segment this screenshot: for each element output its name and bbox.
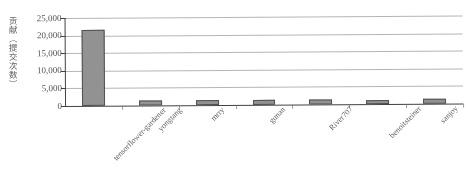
x-tick-label-text: mrry	[210, 106, 227, 123]
gridlines	[65, 16, 463, 18]
y-tick-label: 15,000	[18, 49, 62, 58]
x-tick-label: benoitsteiner	[388, 105, 423, 140]
y-tick-label: 20,000	[18, 31, 62, 40]
bar	[253, 100, 276, 105]
x-tick-label: tensorflower-gardener	[113, 106, 169, 162]
x-tick-label: gunan	[268, 106, 287, 126]
y-tick-mark	[61, 18, 66, 19]
y-axis-line	[65, 18, 67, 106]
y-axis-tick-labels: 25,00020,00015,00010,0005,0000	[15, 1, 62, 192]
bar	[310, 100, 333, 105]
x-tick-label-text: sanjoy	[439, 105, 459, 125]
bar	[196, 101, 219, 106]
y-tick-label: 5,000	[18, 84, 62, 93]
y-tick-mark	[61, 71, 66, 72]
y-tick-mark	[61, 36, 66, 37]
y-tick-label: 25,000	[17, 14, 61, 23]
x-tick-label-text: tensorflower-gardener	[113, 106, 169, 162]
x-tick-label: mrry	[210, 106, 227, 123]
x-axis-category-labels: tensorflower-gardeneryongtangmrrygunanRi…	[65, 105, 463, 187]
gridline	[65, 86, 463, 89]
gridline	[65, 33, 463, 36]
x-tick-label-text: gunan	[268, 106, 287, 126]
plot-area	[65, 16, 464, 106]
y-tick-mark	[61, 53, 66, 54]
gridline	[65, 68, 463, 71]
bar	[366, 100, 389, 105]
x-tick-mark	[463, 104, 464, 108]
y-tick-label: 0	[18, 102, 62, 111]
bar	[423, 99, 446, 104]
gridline	[65, 51, 463, 54]
bar	[139, 101, 162, 106]
y-tick-mark	[61, 88, 66, 89]
x-tick-label-text: River707	[328, 105, 355, 132]
bar-chart-figure: 贡献（提交次数） 25,00020,00015,00010,0005,0000 …	[0, 0, 468, 192]
gridline	[65, 16, 463, 19]
x-tick-label: River707	[328, 105, 355, 132]
y-axis-title: 贡献（提交次数）	[2, 17, 17, 112]
y-tick-label: 10,000	[18, 66, 62, 75]
x-tick-label: sanjoy	[439, 105, 459, 125]
figure-caption	[1, 182, 468, 192]
bar	[82, 30, 105, 106]
x-tick-label-text: benoitsteiner	[388, 105, 423, 140]
